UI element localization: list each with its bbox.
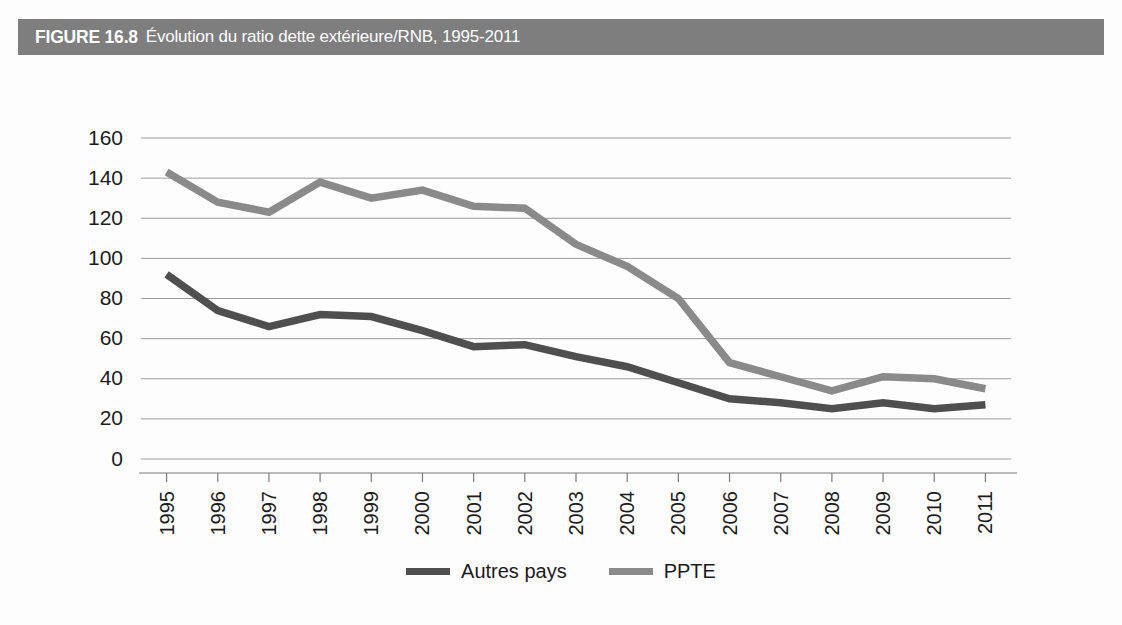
x-axis-tick-label: 2006 bbox=[719, 491, 741, 536]
y-axis-tick-label: 160 bbox=[88, 126, 123, 149]
figure-title-band: FIGURE 16.8 Évolution du ratio dette ext… bbox=[18, 19, 1104, 55]
legend-swatch-icon bbox=[609, 568, 653, 575]
legend-item[interactable]: PPTE bbox=[609, 560, 716, 583]
x-axis-tick-label: 2009 bbox=[872, 491, 894, 536]
x-axis-tick-label: 2001 bbox=[463, 491, 485, 536]
figure-number: FIGURE 16.8 bbox=[35, 27, 138, 48]
x-axis-tick-label: 2008 bbox=[821, 491, 843, 536]
gridlines bbox=[141, 138, 1011, 459]
x-axis-tick-label: 1999 bbox=[360, 491, 382, 536]
y-axis-labels: 020406080100120140160 bbox=[88, 126, 123, 470]
y-axis-tick-label: 120 bbox=[88, 206, 123, 229]
data-series bbox=[167, 172, 986, 409]
legend-label: PPTE bbox=[664, 560, 716, 583]
chart-area: 020406080100120140160 199519961997199819… bbox=[0, 56, 1122, 616]
chart-legend: Autres paysPPTE bbox=[0, 558, 1122, 584]
legend-label: Autres pays bbox=[461, 560, 567, 583]
line-chart: 020406080100120140160 199519961997199819… bbox=[0, 56, 1122, 616]
x-axis-tick-label: 1998 bbox=[309, 491, 331, 536]
legend-swatch-icon bbox=[406, 568, 450, 575]
series-line-autres-pays bbox=[167, 274, 986, 408]
figure-container: FIGURE 16.8 Évolution du ratio dette ext… bbox=[0, 0, 1122, 625]
x-axis-tick-label: 2007 bbox=[770, 491, 792, 536]
legend-item[interactable]: Autres pays bbox=[406, 560, 567, 583]
x-axis-tick-label: 2000 bbox=[411, 491, 433, 536]
x-axis-tick-label: 2011 bbox=[974, 491, 996, 534]
y-axis-tick-label: 140 bbox=[88, 166, 123, 189]
x-axis bbox=[139, 473, 1017, 482]
x-axis-tick-label: 2010 bbox=[923, 491, 945, 536]
x-axis-tick-label: 1995 bbox=[156, 491, 178, 536]
y-axis-tick-label: 100 bbox=[88, 246, 123, 269]
x-axis-tick-label: 1997 bbox=[258, 491, 280, 536]
figure-title: Évolution du ratio dette extérieure/RNB,… bbox=[146, 27, 520, 47]
y-axis-tick-label: 20 bbox=[100, 406, 123, 429]
y-axis-tick-label: 80 bbox=[100, 286, 123, 309]
y-axis-tick-label: 0 bbox=[111, 447, 123, 470]
y-axis-tick-label: 60 bbox=[100, 326, 123, 349]
x-axis-tick-label: 2002 bbox=[514, 491, 536, 536]
y-axis-tick-label: 40 bbox=[100, 366, 123, 389]
x-axis-labels: 1995199619971998199920002001200220032004… bbox=[156, 491, 997, 536]
x-axis-tick-label: 1996 bbox=[207, 491, 229, 536]
x-axis-tick-label: 2004 bbox=[616, 491, 638, 536]
x-axis-tick-label: 2005 bbox=[667, 491, 689, 536]
x-axis-tick-label: 2003 bbox=[565, 491, 587, 536]
